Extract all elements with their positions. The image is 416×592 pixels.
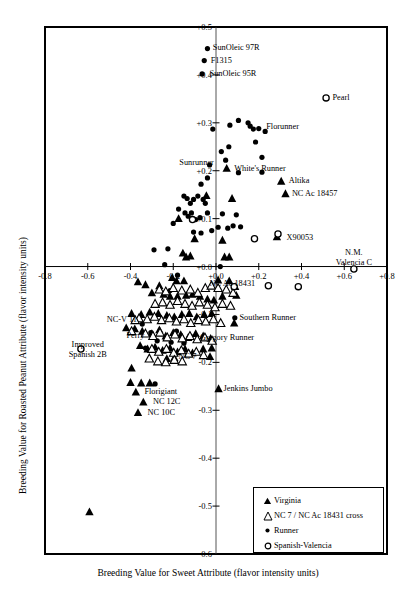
y-tick-label: -0.6 [199, 549, 212, 559]
data-point-filled-triangle [185, 309, 193, 317]
data-point-filled-circle [198, 182, 203, 187]
data-point-filled-triangle [228, 194, 236, 202]
open-triangle-icon [261, 511, 274, 521]
data-point-filled-triangle [223, 164, 231, 172]
data-point-filled-circle [188, 201, 193, 206]
point-annotation: Southern Runner [240, 314, 296, 323]
point-annotation: White's Runner [234, 165, 286, 174]
x-tick-label: -0.4 [124, 271, 137, 281]
data-point-open-circle [275, 231, 281, 237]
data-point-filled-circle [236, 118, 241, 123]
y-tick-label: +0.5 [197, 22, 212, 32]
point-annotation: Perry [126, 332, 144, 341]
data-point-open-circle [323, 95, 329, 101]
point-annotation: NC Ac 18431 [210, 280, 256, 289]
x-tick-label: -0.6 [81, 271, 94, 281]
point-annotation: SunOleic 95R [210, 70, 257, 79]
data-point-filled-circle [216, 225, 221, 230]
x-tick-label: +0.4 [294, 271, 309, 281]
point-annotation: Sunrunner [179, 159, 214, 168]
x-tick-label: -0.8 [38, 271, 51, 281]
data-point-filled-triangle [148, 288, 156, 296]
data-point-filled-circle [162, 262, 167, 267]
point-annotation: Jenkins Jumbo [223, 384, 272, 393]
data-point-filled-circle [223, 158, 228, 163]
data-point-filled-triangle [174, 214, 182, 222]
data-point-filled-circle [151, 247, 156, 252]
data-point-filled-triangle [126, 378, 134, 386]
data-point-filled-triangle [141, 280, 149, 288]
data-point-open-triangle [186, 285, 194, 293]
data-point-filled-circle [176, 206, 181, 211]
point-annotation: N.M. [345, 249, 363, 258]
data-point-filled-triangle [190, 234, 198, 242]
data-point-open-triangle [226, 301, 234, 309]
data-point-filled-triangle [202, 191, 210, 199]
point-annotation: Florunner [266, 122, 299, 131]
data-point-filled-circle [218, 264, 223, 269]
series-spanish-valencia [78, 95, 357, 352]
data-point-filled-triangle [218, 236, 226, 244]
data-point-filled-circle [227, 123, 232, 128]
data-point-filled-circle [219, 149, 224, 154]
data-point-open-triangle [211, 303, 219, 311]
point-annotation: SunOleic 97R [213, 44, 260, 53]
data-point-filled-triangle [127, 364, 135, 372]
legend-label: NC 7 / NC Ac 18431 cross [274, 511, 363, 520]
data-point-filled-triangle [136, 341, 144, 349]
data-point-filled-triangle [180, 277, 188, 285]
data-point-filled-circle [251, 126, 256, 131]
legend-item: Runner [261, 523, 379, 538]
data-point-filled-triangle [132, 388, 140, 396]
y-tick-label: -0.3 [199, 405, 212, 415]
point-annotation: NC 7 [179, 352, 197, 361]
scatter-plot-figure: -0.8-0.6-0.4-0.2+0.0+0.2+0.4+0.6+0.8+0.5… [0, 0, 416, 592]
data-point-filled-circle [231, 223, 236, 228]
point-annotation: NC-V 11 [107, 316, 137, 325]
legend-item: Virginia [261, 493, 379, 508]
data-point-filled-circle [191, 229, 196, 234]
legend-label: Runner [274, 526, 298, 535]
data-point-open-triangle [178, 286, 186, 294]
legend-item: Spanish-Valencia [261, 538, 379, 553]
data-point-filled-circle [209, 228, 214, 233]
data-point-filled-triangle [146, 308, 154, 316]
data-point-open-triangle [154, 357, 162, 365]
data-point-filled-triangle [277, 177, 285, 185]
point-annotation: Florigiant [144, 388, 177, 397]
data-point-filled-circle [205, 46, 210, 51]
point-annotation: X90053 [287, 233, 314, 242]
data-point-open-circle [189, 216, 195, 222]
data-point-filled-triangle [230, 319, 238, 327]
x-tick-label: -0.2 [167, 271, 180, 281]
data-point-filled-triangle [281, 189, 289, 197]
data-point-open-circle [295, 284, 301, 290]
y-tick-label: -0.1 [199, 309, 212, 319]
filled-circle-icon [261, 526, 274, 535]
data-point-open-triangle [181, 300, 189, 308]
data-point-open-triangle [218, 300, 226, 308]
data-point-filled-triangle [134, 408, 142, 416]
legend-label: Spanish-Valencia [274, 541, 332, 550]
x-tick-label: +0.8 [379, 271, 394, 281]
data-point-filled-circle [226, 144, 231, 149]
y-tick-label: +0.0 [197, 262, 212, 272]
y-axis-label: Breeding Value for Roasted Peanut Attrib… [18, 237, 28, 494]
data-point-open-triangle [158, 298, 166, 306]
y-tick-label: +0.3 [197, 118, 212, 128]
x-axis-label: Breeding Value for Sweet Attribute (flav… [0, 568, 416, 578]
legend-label: Virginia [274, 496, 301, 505]
point-annotation: NC 10C [148, 408, 175, 417]
data-point-filled-circle [232, 315, 237, 320]
data-point-filled-circle [195, 194, 200, 199]
data-point-filled-triangle [85, 507, 93, 515]
data-point-filled-circle [234, 212, 239, 217]
data-point-filled-triangle [139, 398, 147, 406]
y-tick-label: -0.2 [199, 357, 212, 367]
data-point-filled-circle [225, 226, 230, 231]
point-annotation: NC 12C [153, 398, 180, 407]
data-point-filled-circle [198, 230, 203, 235]
data-point-filled-circle [253, 139, 258, 144]
data-point-filled-circle [256, 126, 261, 131]
data-point-open-circle [265, 283, 271, 289]
